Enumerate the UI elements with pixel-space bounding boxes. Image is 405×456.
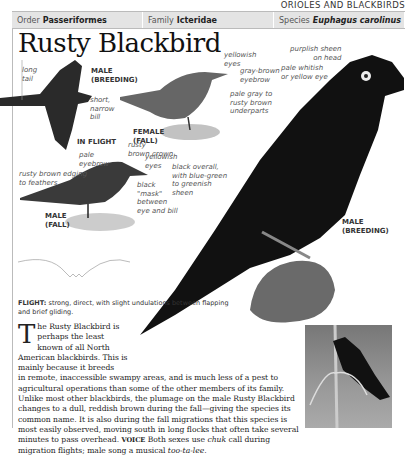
intro-paragraph: The Rusty Blackbird is perhaps the least… (18, 322, 130, 373)
male-flight-illustration (0, 60, 92, 150)
annotation-purplish-sheen: purplish sheenon head (290, 45, 342, 62)
annotation-pale-eye: pale whitishor yellow eye (281, 64, 328, 81)
species-description: The Rusty Blackbird is perhaps the least… (18, 322, 308, 456)
annotation-long-tail: longtail (22, 66, 37, 83)
annotation-black-overall: black overall,with blue-greento greenish… (172, 163, 227, 197)
flight-note-text: strong, direct, with slight undulations … (18, 299, 229, 316)
caption-male-breeding-flight: MALE(BREEDING) (91, 67, 138, 85)
annotation-short-bill: short,narrowbill (90, 96, 115, 122)
flight-note-label: FLIGHT: (18, 299, 46, 307)
drop-cap: T (18, 323, 35, 345)
annotation-yellowish-eyes-female: yellowisheyes (224, 51, 256, 68)
flight-path-diagram (18, 260, 130, 277)
perched-bird-photo (305, 325, 392, 428)
caption-in-flight: IN FLIGHT (77, 138, 116, 147)
bird-photo (305, 325, 392, 428)
caption-male-fall: MALE(FALL) (45, 212, 70, 230)
annotation-gray-brown-eyebrow: gray-browneyebrow (240, 67, 280, 84)
voice-label: VOICE (122, 436, 146, 444)
voice-song: too-ta-lee (168, 446, 204, 455)
voice-call: chuk (207, 435, 226, 444)
annotation-rusty-edging: rusty brown edgingto feathers (19, 170, 87, 187)
annotation-pale-eyebrow: paleeyebrow (79, 151, 109, 168)
caption-male-breeding: MALE(BREEDING) (342, 218, 389, 236)
annotation-pale-gray-underparts: pale gray torusty brownunderparts (230, 90, 272, 116)
description-text: in remote, inaccessible swampy areas, an… (18, 373, 299, 444)
flight-note: FLIGHT: strong, direct, with slight undu… (18, 299, 238, 317)
